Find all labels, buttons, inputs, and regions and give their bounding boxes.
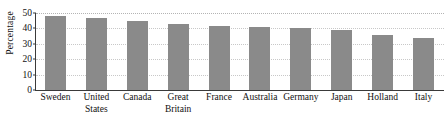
x-axis-label: Canada — [117, 92, 158, 104]
bar — [413, 38, 434, 90]
y-axis-title: Percentage — [5, 1, 15, 65]
x-axis-labels: SwedenUnitedStatesCanadaGreatBritainFran… — [35, 92, 444, 126]
y-tick-label-0: 0 — [27, 85, 32, 95]
x-axis-label-line: Sweden — [35, 92, 76, 104]
x-axis-label-line: Germany — [280, 92, 321, 104]
x-axis-line — [35, 90, 444, 91]
bar — [209, 26, 230, 90]
x-axis-label-line: Britain — [158, 104, 199, 116]
x-axis-label: France — [199, 92, 240, 104]
bar — [372, 35, 393, 90]
x-axis-label: Japan — [321, 92, 362, 104]
x-axis-label-line: States — [76, 104, 117, 116]
x-axis-label-line: Canada — [117, 92, 158, 104]
x-axis-label: Italy — [403, 92, 444, 104]
bar — [290, 28, 311, 90]
y-tick-label-40: 40 — [23, 23, 33, 33]
bar — [45, 16, 66, 90]
x-axis-label-line: France — [199, 92, 240, 104]
x-axis-label: Sweden — [35, 92, 76, 104]
x-axis-label-line: Japan — [321, 92, 362, 104]
x-axis-label-line: Great — [158, 92, 199, 104]
x-axis-label: Holland — [362, 92, 403, 104]
y-tick-label-20: 20 — [23, 54, 33, 64]
bar-chart: Percentage 01020304050 SwedenUnitedState… — [0, 0, 447, 126]
bar — [249, 27, 270, 90]
x-axis-label-line: United — [76, 92, 117, 104]
bar — [86, 18, 107, 90]
y-tick-label-50: 50 — [23, 8, 33, 18]
bar — [331, 30, 352, 90]
x-axis-label-line: Australia — [240, 92, 281, 104]
x-axis-label-line: Holland — [362, 92, 403, 104]
bar — [168, 24, 189, 90]
bar — [127, 21, 148, 90]
x-axis-label-line: Italy — [403, 92, 444, 104]
y-tick-label-10: 10 — [23, 70, 33, 80]
bars-group — [35, 13, 444, 90]
x-axis-label: UnitedStates — [76, 92, 117, 115]
x-axis-label: GreatBritain — [158, 92, 199, 115]
x-axis-label: Germany — [280, 92, 321, 104]
y-tick-label-30: 30 — [23, 39, 33, 49]
x-axis-label: Australia — [240, 92, 281, 104]
